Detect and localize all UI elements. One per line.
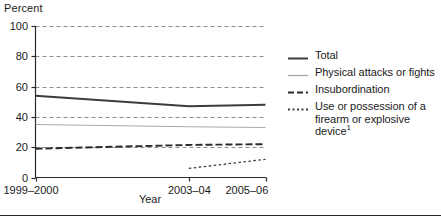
legend-item-label: Use or possession of a firearm or explos… — [315, 100, 440, 138]
series-line — [36, 124, 266, 127]
legend-swatch-icon — [288, 84, 308, 96]
series-line — [189, 159, 266, 168]
y-tick-label: 80 — [0, 50, 28, 62]
legend-item[interactable]: Physical attacks or fights — [288, 66, 440, 80]
legend-item[interactable]: Use or possession of a firearm or explos… — [288, 100, 440, 138]
chart-legend: TotalPhysical attacks or fightsInsubordi… — [288, 49, 440, 141]
legend-item[interactable]: Total — [288, 49, 440, 63]
axis-lines — [35, 26, 266, 178]
data-series — [36, 96, 266, 169]
x-axis-ticks — [37, 178, 267, 182]
y-tick-label: 60 — [0, 81, 28, 93]
series-line — [36, 96, 266, 107]
x-axis-title: Year — [0, 193, 300, 205]
bottom-divider — [0, 215, 441, 216]
gridlines — [36, 27, 266, 148]
legend-swatch-icon — [288, 101, 308, 113]
legend-item[interactable]: Insubordination — [288, 83, 440, 97]
legend-item-label: Total — [315, 49, 338, 62]
series-line — [36, 144, 266, 149]
y-tick-label: 100 — [0, 20, 28, 32]
y-tick-label: 20 — [0, 141, 28, 153]
legend-item-label: Physical attacks or fights — [315, 66, 435, 79]
legend-swatch-icon — [288, 67, 308, 79]
y-tick-label: 40 — [0, 111, 28, 123]
chart-figure: Percent 020406080100 1999–20002003–04200… — [0, 0, 441, 223]
legend-swatch-icon — [288, 50, 308, 62]
y-tick-label: 0 — [0, 172, 28, 184]
legend-item-label: Insubordination — [315, 83, 389, 96]
